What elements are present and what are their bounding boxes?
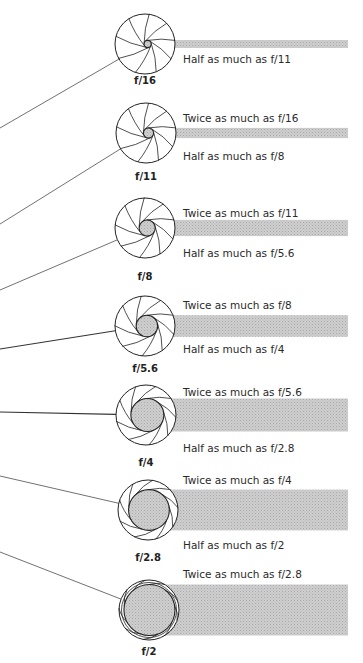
pointer-line [0,331,115,349]
aperture-f-2 [119,580,179,640]
half-caption: Half as much as f/4 [183,343,285,355]
f-stop-label: f/11 [135,171,157,182]
light-bar [149,490,348,531]
twice-caption: Twice as much as f/5.6 [182,386,302,398]
light-bar [147,315,348,337]
aperture-opening [124,585,175,636]
twice-caption: Twice as much as f/8 [182,299,292,311]
twice-caption: Twice as much as f/4 [182,474,292,486]
aperture-f-4 [116,385,176,445]
pointer-line [0,240,117,290]
twice-caption: Twice as much as f/11 [182,207,298,219]
light-bar [148,128,348,138]
half-caption: Half as much as f/2 [183,539,284,551]
f-stop-label: f/4 [139,457,154,468]
light-bar [147,399,348,432]
light-bar [148,40,348,48]
aperture-opening [129,490,170,531]
aperture-f-5-6 [115,296,175,356]
aperture-diagram: f/16Half as much as f/11f/11Twice as muc… [0,0,363,663]
pointer-line [0,59,119,128]
half-caption: Half as much as f/5.6 [183,247,295,259]
pointer-line [0,412,116,414]
light-bar [147,220,348,236]
pointer-line [0,149,121,224]
aperture-opening [131,399,164,432]
aperture-f-11 [116,103,176,163]
aperture-f-2-8 [118,480,178,540]
aperture-f-8 [115,198,175,259]
f-stop-label: f/5.6 [132,363,158,374]
apertures [115,14,179,640]
twice-caption: Twice as much as f/2.8 [182,568,302,580]
half-caption: Half as much as f/11 [183,53,291,65]
f-stop-label: f/16 [134,75,156,86]
f-stop-label: f/2.8 [135,552,161,563]
pointer-line [0,552,121,599]
half-caption: Half as much as f/8 [183,150,284,162]
pointer-line [0,476,119,503]
f-stop-label: f/8 [138,271,153,282]
f-stop-label: f/2 [142,646,157,657]
aperture-f-16 [115,14,175,74]
twice-caption: Twice as much as f/16 [182,112,299,124]
half-caption: Half as much as f/2.8 [183,442,294,454]
pointer-lines [0,59,121,599]
